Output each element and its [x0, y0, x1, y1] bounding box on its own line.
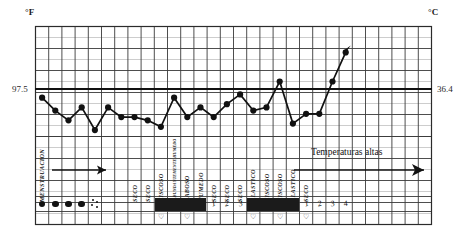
mucus-label-cell: MENSTRUACION [38, 148, 45, 201]
temperature-point [197, 104, 203, 110]
mucus-label-cell: SECO [144, 184, 151, 201]
temperature-point [105, 104, 111, 110]
temperature-point [277, 78, 283, 84]
temperature-point [52, 108, 58, 114]
temperature-point [158, 124, 164, 130]
intercourse-heart-icon: ♡ [154, 213, 167, 222]
temperature-point [303, 111, 309, 117]
temperature-point [184, 114, 190, 120]
fertile-window-block [247, 198, 299, 211]
intercourse-heart-icon: ♡ [273, 213, 286, 222]
temperature-point [329, 78, 335, 84]
intercourse-heart-icon: ♡ [181, 213, 194, 222]
mucus-label-cell: SECO [131, 184, 138, 201]
bleeding-dot [52, 201, 59, 208]
temperature-point [39, 95, 45, 101]
fertile-window-block [155, 198, 207, 211]
intercourse-heart-icon: ♡ [247, 213, 260, 222]
temperature-point [92, 127, 98, 133]
mucus-label-cell: ABUNDANTEMENTE HUMEDO [172, 138, 177, 199]
temperature-point [224, 101, 230, 107]
temperature-point [290, 120, 296, 126]
high-temperatures-arrow [294, 164, 424, 176]
spotting-marks [88, 197, 101, 212]
temperature-point [118, 114, 124, 120]
menstruation-arrow [52, 166, 106, 175]
bleeding-dot [65, 201, 72, 208]
temperature-point [145, 117, 151, 123]
temperature-point [171, 95, 177, 101]
temperature-point [211, 114, 217, 120]
intercourse-heart-icon: ♡ [300, 213, 313, 222]
temperature-point [237, 91, 243, 97]
temperature-point [65, 117, 71, 123]
temperature-point [79, 104, 85, 110]
temperature-point [316, 111, 322, 117]
temperature-point [250, 108, 256, 114]
temperature-point [263, 104, 269, 110]
temperature-point [131, 114, 137, 120]
bbt-chart-root: °F °C 97.5 36.4 Temperaturas altas MENST… [0, 0, 472, 238]
